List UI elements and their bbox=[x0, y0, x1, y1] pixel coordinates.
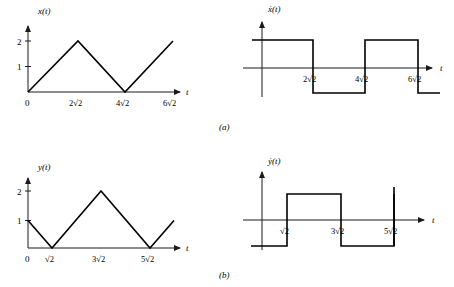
panel-bottom-right: ẏ(t) t √2 3√2 5√2 bbox=[243, 156, 435, 250]
caption-a: (a) bbox=[219, 122, 230, 132]
xlabel-bottom-right: t bbox=[432, 215, 435, 225]
curve-y-of-t bbox=[28, 191, 174, 248]
figure-svg: x(t) t 2 1 0 2√2 4√2 6√2 ẋ(t) t 2√2 4√2 … bbox=[0, 0, 454, 287]
xtick-label-3-bottom-left: 5√2 bbox=[141, 254, 154, 264]
ytick-label-1-bottom-left: 1 bbox=[17, 216, 22, 226]
xtick-label-3-top-right: 6√2 bbox=[408, 74, 421, 84]
xlabel-top-left: t bbox=[186, 87, 189, 97]
ylabel-top-left: x(t) bbox=[37, 6, 51, 16]
ylabel-top-right: ẋ(t) bbox=[267, 4, 281, 14]
curve-x-of-t bbox=[28, 41, 173, 92]
xlabel-top-right: t bbox=[440, 63, 443, 73]
xtick-label-3-top-left: 6√2 bbox=[163, 98, 176, 108]
figure-container: x(t) t 2 1 0 2√2 4√2 6√2 ẋ(t) t 2√2 4√2 … bbox=[0, 0, 454, 287]
caption-b: (b) bbox=[219, 270, 230, 280]
origin-label-bottom-left: 0 bbox=[25, 254, 30, 264]
xtick-label-1-bottom-left: √2 bbox=[45, 254, 54, 264]
ytick-label-1-top-left: 1 bbox=[17, 62, 22, 72]
xtick-label-2-top-right: 4√2 bbox=[355, 74, 368, 84]
xtick-label-1-top-left: 2√2 bbox=[69, 98, 82, 108]
ytick-label-2-top-left: 2 bbox=[17, 37, 22, 47]
panel-bottom-left: y(t) t 2 1 0 √2 3√2 5√2 bbox=[17, 162, 189, 264]
panel-top-right: ẋ(t) t 2√2 4√2 6√2 bbox=[243, 4, 443, 97]
curve-xdot-of-t bbox=[252, 40, 440, 93]
ylabel-bottom-left: y(t) bbox=[37, 162, 51, 172]
xtick-label-1-top-right: 2√2 bbox=[303, 74, 316, 84]
xtick-label-2-bottom-right: 3√2 bbox=[331, 226, 344, 236]
xtick-label-3-bottom-right: 5√2 bbox=[384, 226, 397, 236]
ytick-label-2-bottom-left: 2 bbox=[17, 187, 22, 197]
xtick-label-1-bottom-right: √2 bbox=[280, 226, 289, 236]
ylabel-bottom-right: ẏ(t) bbox=[267, 156, 281, 166]
xtick-label-2-top-left: 4√2 bbox=[116, 98, 129, 108]
panel-top-left: x(t) t 2 1 0 2√2 4√2 6√2 bbox=[17, 6, 189, 108]
xlabel-bottom-left: t bbox=[186, 243, 189, 253]
xtick-label-2-bottom-left: 3√2 bbox=[92, 254, 105, 264]
origin-label-top-left: 0 bbox=[25, 98, 30, 108]
